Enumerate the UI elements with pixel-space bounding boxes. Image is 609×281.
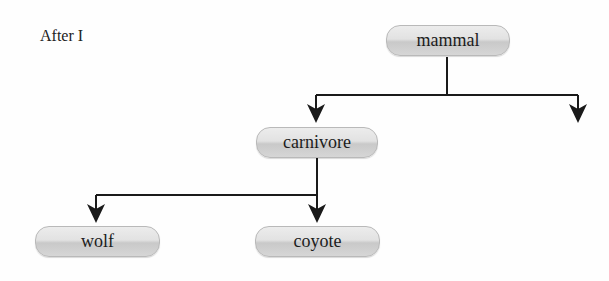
- node-coyote: coyote: [255, 226, 380, 257]
- node-carnivore: carnivore: [256, 127, 378, 158]
- tree-diagram: After I mammal carnivore: [0, 0, 609, 281]
- node-label: coyote: [294, 231, 342, 252]
- node-label: wolf: [81, 231, 114, 252]
- node-label: mammal: [417, 30, 480, 51]
- node-mammal: mammal: [386, 25, 510, 56]
- node-wolf: wolf: [35, 226, 160, 257]
- node-label: carnivore: [283, 132, 351, 153]
